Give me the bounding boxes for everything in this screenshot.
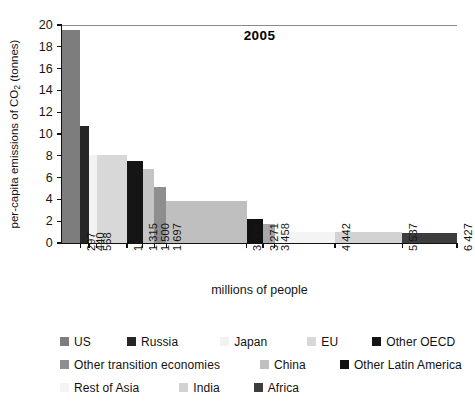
- legend-swatch-icon: [220, 337, 229, 346]
- legend-item-china[interactable]: China: [260, 358, 306, 372]
- x-axis-tick: [88, 243, 89, 248]
- x-axis-tick: [80, 243, 81, 248]
- bar-us: [62, 30, 80, 243]
- legend-swatch-icon: [254, 383, 263, 392]
- legend-label: Rest of Asia: [74, 381, 139, 395]
- y-axis-tick-label: 16: [39, 62, 53, 76]
- legend-swatch-icon: [179, 383, 188, 392]
- legend-item-japan[interactable]: Japan: [220, 335, 267, 349]
- legend-item-russia[interactable]: Russia: [127, 335, 178, 349]
- x-axis-tick-label: 5 537: [407, 223, 419, 251]
- legend-label: Other Latin America: [354, 358, 462, 372]
- legend-swatch-icon: [307, 337, 316, 346]
- y-axis-tick-label: 8: [46, 149, 53, 163]
- legend-label: Japan: [234, 335, 267, 349]
- legend-swatch-icon: [372, 337, 381, 346]
- legend-swatch-icon: [340, 360, 349, 369]
- y-axis-tick-label: 10: [39, 127, 53, 141]
- x-axis-tick: [142, 243, 143, 248]
- y-axis-tick-label: 12: [39, 105, 53, 119]
- x-axis-tick-label: 568: [101, 232, 113, 251]
- legend-item-africa[interactable]: Africa: [254, 381, 299, 395]
- legend-item-other-latin-america[interactable]: Other Latin America: [340, 358, 462, 372]
- legend-label: China: [274, 358, 306, 372]
- legend-label: Africa: [268, 381, 299, 395]
- bar-japan: [89, 155, 97, 243]
- x-axis-tick: [154, 243, 155, 248]
- legend-label: EU: [321, 335, 338, 349]
- y-axis-tick: [57, 155, 62, 156]
- y-axis-tick-label: 0: [46, 236, 53, 250]
- legend-item-india[interactable]: India: [179, 381, 220, 395]
- legend-label: Other OECD: [386, 335, 455, 349]
- legend-label: US: [74, 335, 91, 349]
- x-axis-tick-label: 6 427: [462, 223, 474, 251]
- x-axis-tick-label: 3 458: [279, 223, 291, 251]
- y-axis-tick: [57, 242, 62, 243]
- legend-swatch-icon: [60, 337, 69, 346]
- legend-item-eu[interactable]: EU: [307, 335, 338, 349]
- y-axis-tick: [57, 221, 62, 222]
- x-axis-tick: [166, 243, 167, 248]
- legend-swatch-icon: [60, 360, 69, 369]
- x-axis-tick: [96, 243, 97, 248]
- bar-eu: [97, 155, 127, 243]
- y-axis-tick-label: 20: [39, 18, 53, 32]
- legend-row: Other transition economiesChinaOther Lat…: [26, 353, 454, 376]
- y-axis-tick: [57, 68, 62, 69]
- legend-swatch-icon: [260, 360, 269, 369]
- y-axis-tick: [57, 46, 62, 47]
- chart-figure: 2005 per-capita emissions of CO2 (tonnes…: [0, 0, 475, 408]
- bar-russia: [80, 126, 89, 243]
- chart-legend: USRussiaJapanEUOther OECDMiddle EastOthe…: [26, 330, 454, 399]
- x-axis-tick: [334, 243, 335, 248]
- x-axis-tick: [246, 243, 247, 248]
- legend-row: USRussiaJapanEUOther OECDMiddle East: [26, 330, 454, 353]
- plot-area: 02468101214161820 2974405681 0591 3151 5…: [62, 25, 457, 243]
- legend-row: Rest of AsiaIndiaAfrica: [26, 376, 454, 399]
- legend-item-us[interactable]: US: [60, 335, 91, 349]
- y-axis-tick-label: 6: [46, 171, 53, 185]
- y-axis-tick: [57, 133, 62, 134]
- y-axis-tick: [57, 90, 62, 91]
- y-axis-tick: [57, 199, 62, 200]
- y-axis-tick-label: 4: [46, 192, 53, 206]
- x-axis-tick: [456, 243, 457, 248]
- y-axis-tick-label: 14: [39, 83, 53, 97]
- x-axis-tick-label: 4 442: [340, 223, 352, 251]
- y-axis-title: per-capita emissions of CO2 (tonnes): [8, 25, 24, 243]
- legend-item-rest-of-asia[interactable]: Rest of Asia: [60, 381, 139, 395]
- legend-label: Russia: [141, 335, 178, 349]
- y-axis-tick: [57, 112, 62, 113]
- y-axis-tick-label: 2: [46, 214, 53, 228]
- x-axis-tick: [262, 243, 263, 248]
- x-axis-title: millions of people: [62, 283, 457, 297]
- legend-swatch-icon: [60, 383, 69, 392]
- x-axis-tick-label: 1 697: [171, 223, 183, 251]
- x-axis-tick-label: 1 500: [159, 223, 171, 251]
- legend-item-other-oecd[interactable]: Other OECD: [372, 335, 455, 349]
- legend-swatch-icon: [127, 337, 136, 346]
- legend-item-other-transition-economies[interactable]: Other transition economies: [60, 358, 220, 372]
- y-axis-tick: [57, 24, 62, 25]
- legend-label: India: [193, 381, 220, 395]
- y-axis-tick-label: 18: [39, 40, 53, 54]
- legend-label: Other transition economies: [74, 358, 220, 372]
- y-axis-tick: [57, 177, 62, 178]
- x-axis-tick: [126, 243, 127, 248]
- x-axis-tick: [402, 243, 403, 248]
- x-axis-tick: [274, 243, 275, 248]
